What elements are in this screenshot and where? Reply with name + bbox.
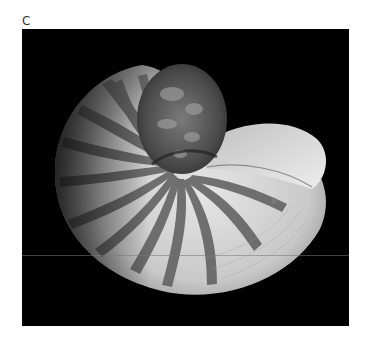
scan-line-artifact xyxy=(22,255,349,256)
panel-label: C xyxy=(22,14,30,28)
nautilus-shell-photo xyxy=(22,29,349,326)
nautilus-shell-illustration xyxy=(22,29,349,326)
